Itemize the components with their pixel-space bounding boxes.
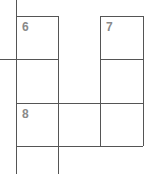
cell[interactable]: [17, 60, 58, 103]
cell[interactable]: [59, 104, 100, 146]
clue-number: 8: [22, 107, 29, 121]
cell[interactable]: [101, 60, 143, 103]
clue-number: 7: [106, 20, 113, 34]
clue-number: 6: [22, 20, 29, 34]
cell-7[interactable]: 7: [101, 17, 143, 59]
grid-line: [58, 16, 59, 174]
cell-6[interactable]: 6: [17, 17, 58, 59]
cell[interactable]: [17, 147, 58, 174]
grid-line: [143, 16, 144, 146]
cell[interactable]: [101, 104, 143, 146]
cell-8[interactable]: 8: [17, 104, 58, 146]
